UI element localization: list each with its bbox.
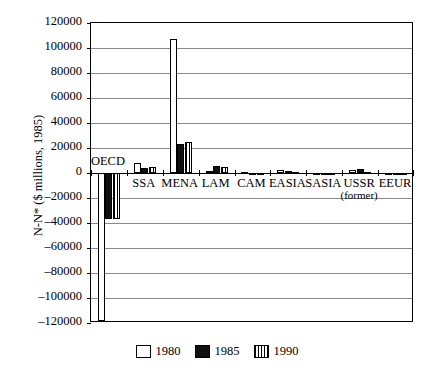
y-axis-tick-label: 20000 bbox=[0, 139, 82, 154]
bar bbox=[328, 173, 335, 175]
y-axis-tick-label: –40000 bbox=[0, 214, 82, 229]
gridline bbox=[91, 148, 412, 149]
bar bbox=[393, 173, 400, 175]
y-axis-tick bbox=[87, 73, 91, 74]
gridline bbox=[91, 298, 412, 299]
gridline bbox=[91, 123, 412, 124]
gridline bbox=[91, 248, 412, 249]
bar bbox=[400, 173, 407, 175]
legend-item: 1985 bbox=[195, 344, 240, 359]
y-axis-tick-label: 100000 bbox=[0, 39, 82, 54]
y-axis-tick-label: –100000 bbox=[0, 289, 82, 304]
y-axis-tick-label: –60000 bbox=[0, 239, 82, 254]
legend: 198019851990 bbox=[0, 344, 434, 359]
y-axis-tick-label: –20000 bbox=[0, 189, 82, 204]
bar bbox=[321, 173, 328, 175]
bar bbox=[185, 142, 192, 173]
bar bbox=[249, 173, 256, 175]
bar bbox=[149, 167, 156, 173]
y-axis-tick-label: –80000 bbox=[0, 264, 82, 279]
legend-label: 1980 bbox=[156, 344, 181, 359]
bar bbox=[285, 171, 292, 173]
gridline bbox=[91, 98, 412, 99]
y-axis-tick bbox=[87, 248, 91, 249]
y-axis-tick bbox=[87, 48, 91, 49]
bar-chart: N-N* ($ millions, 1985) 1200001000008000… bbox=[0, 0, 434, 383]
legend-item: 1990 bbox=[254, 344, 299, 359]
bar bbox=[141, 168, 148, 173]
bar bbox=[206, 171, 213, 173]
bar bbox=[213, 166, 220, 174]
legend-label: 1985 bbox=[215, 344, 240, 359]
y-axis-tick bbox=[87, 173, 91, 174]
legend-item: 1980 bbox=[136, 344, 181, 359]
legend-label: 1990 bbox=[274, 344, 299, 359]
gridline bbox=[91, 223, 412, 224]
bar bbox=[221, 167, 228, 173]
legend-swatch-1990 bbox=[254, 345, 269, 358]
bar bbox=[98, 173, 105, 321]
bar bbox=[170, 39, 177, 173]
y-axis-tick-label: 60000 bbox=[0, 89, 82, 104]
legend-swatch-1980 bbox=[136, 345, 151, 358]
y-axis-tick bbox=[87, 198, 91, 199]
bar bbox=[277, 170, 284, 173]
y-axis-tick-label: 40000 bbox=[0, 114, 82, 129]
bar bbox=[357, 169, 364, 173]
bar bbox=[349, 170, 356, 173]
gridline bbox=[91, 73, 412, 74]
y-axis-tick bbox=[87, 298, 91, 299]
y-axis-tick bbox=[87, 123, 91, 124]
plot-area bbox=[90, 22, 413, 322]
bar bbox=[292, 172, 299, 174]
x-axis-label-oecd: OECD bbox=[74, 154, 142, 169]
bar bbox=[257, 173, 264, 175]
bar bbox=[385, 173, 392, 175]
gridline bbox=[91, 273, 412, 274]
y-axis-tick-label: 80000 bbox=[0, 64, 82, 79]
bar bbox=[364, 172, 371, 174]
bar bbox=[177, 144, 184, 173]
y-axis-tick bbox=[87, 223, 91, 224]
bar bbox=[313, 173, 320, 175]
x-axis-tick bbox=[91, 170, 92, 176]
bar bbox=[241, 172, 248, 174]
y-axis-tick bbox=[87, 273, 91, 274]
y-axis-tick-label: 0 bbox=[0, 164, 82, 179]
y-axis-tick-label: 120000 bbox=[0, 14, 82, 29]
legend-swatch-1985 bbox=[195, 345, 210, 358]
gridline bbox=[91, 48, 412, 49]
y-axis-tick bbox=[87, 23, 91, 24]
y-axis-tick bbox=[87, 148, 91, 149]
y-axis-tick bbox=[87, 98, 91, 99]
x-axis-label-eeur: EEUR bbox=[361, 176, 429, 191]
y-axis-tick bbox=[87, 323, 91, 324]
y-axis-tick-label: –120000 bbox=[0, 314, 82, 329]
